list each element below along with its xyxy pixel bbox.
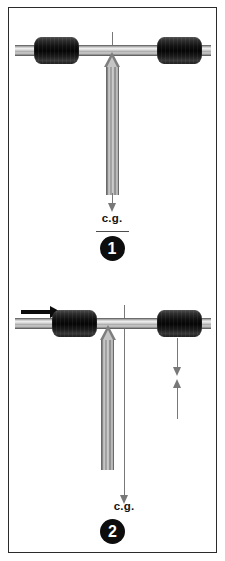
reaction-arrow-down-shaft	[177, 338, 178, 370]
left-weight	[34, 37, 79, 64]
right-weight	[157, 37, 202, 64]
shaft-arrowhead-up-inner-icon	[107, 57, 117, 67]
diagram-page: c.g. 1 c.g. 2	[0, 0, 225, 561]
reaction-arrow-up-shaft	[177, 386, 178, 419]
figure-1: c.g. 1	[0, 0, 225, 280]
figure-badge-1: 1	[100, 236, 125, 261]
reaction-arrowhead-down-icon	[173, 367, 181, 376]
gravity-arrowhead-down-icon	[108, 203, 116, 212]
cg-label: c.g.	[82, 212, 142, 224]
shaft-arrowhead-up-inner-icon	[103, 330, 113, 340]
cg-underline	[96, 231, 129, 232]
support-shaft	[106, 66, 119, 195]
figure-2: c.g. 2	[0, 280, 225, 560]
cg-label: c.g.	[94, 500, 154, 512]
motion-arrow-shaft	[21, 310, 52, 314]
support-shaft	[101, 339, 114, 470]
right-weight	[157, 310, 202, 337]
cg-reference-line	[124, 305, 125, 498]
left-weight	[52, 310, 97, 337]
figure-badge-2: 2	[100, 519, 125, 544]
